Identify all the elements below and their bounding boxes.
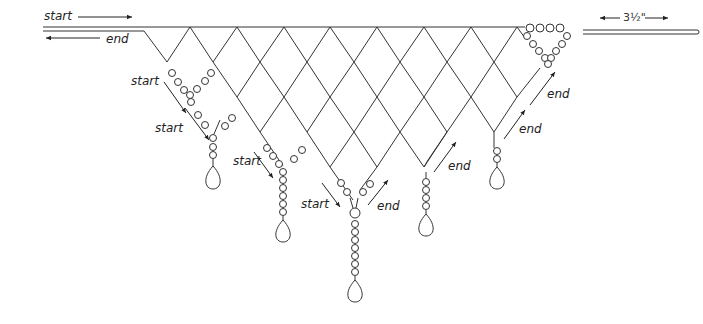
label-top-end: end: [106, 33, 129, 45]
label-drop4-end: end: [448, 160, 471, 172]
zigzag-row-4: [307, 132, 447, 167]
label-measurement: 3½": [623, 12, 646, 23]
label-drop3-start: start: [301, 198, 329, 210]
bead-drop-2: [264, 145, 306, 243]
zigzag-row-1: [144, 27, 525, 62]
zigzag-row-3: [237, 97, 517, 132]
label-drop2-start: start: [233, 155, 261, 167]
bead-drop-3: [338, 180, 374, 303]
label-drop1-start-a: start: [131, 75, 159, 87]
label-drop3-end: end: [377, 200, 400, 212]
zigzag-row-2: [213, 62, 540, 97]
bead-drop-5: [490, 148, 504, 190]
label-drop5-end-a: end: [519, 123, 542, 135]
bead-cluster-top-right: [524, 24, 571, 68]
label-drop5-end-b: end: [547, 88, 570, 100]
label-drop1-start-b: start: [155, 122, 183, 134]
label-top-start: start: [44, 10, 72, 22]
netting-diagram: [0, 0, 703, 324]
bead-drop-4: [419, 172, 433, 236]
